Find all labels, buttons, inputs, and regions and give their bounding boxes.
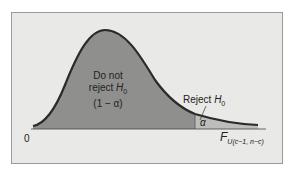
alpha-label: α bbox=[200, 117, 206, 129]
rejection-hypothesis-sub: 0 bbox=[221, 100, 225, 107]
rejection-text: Reject bbox=[183, 94, 214, 105]
axis-variable-sub: U(c−1, n−c) bbox=[227, 138, 264, 145]
origin-label: 0 bbox=[24, 133, 30, 145]
axis-variable-label: FU(c−1, n−c) bbox=[220, 131, 264, 148]
acceptance-hypothesis-sub: 0 bbox=[123, 88, 127, 95]
acceptance-label: Do not reject H0 (1 − α) bbox=[78, 70, 138, 110]
acceptance-line1: Do not bbox=[78, 70, 138, 82]
acceptance-probability: (1 − α) bbox=[78, 98, 138, 110]
rejection-label: Reject H0 bbox=[183, 94, 225, 110]
acceptance-line2: reject H0 bbox=[78, 82, 138, 98]
acceptance-reject-text: reject bbox=[89, 82, 116, 93]
